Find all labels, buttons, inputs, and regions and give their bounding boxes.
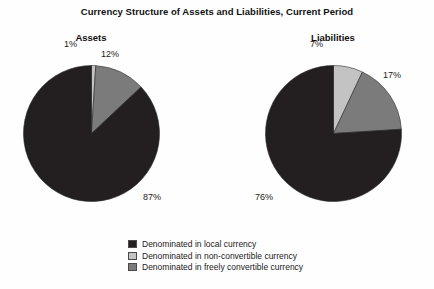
legend-item-local: Denominated in local currency bbox=[128, 239, 303, 249]
liabilities-pie bbox=[265, 65, 402, 206]
assets-panel-title: Assets bbox=[31, 32, 151, 43]
legend-item-freely-convertible: Denominated in freely convertible curren… bbox=[128, 262, 303, 272]
legend-swatch-non-convertible-icon bbox=[128, 252, 137, 260]
liabilities-local-percent-label: 76% bbox=[255, 192, 273, 202]
legend-label-freely-convertible: Denominated in freely convertible curren… bbox=[142, 262, 303, 272]
assets-local-percent-label: 87% bbox=[143, 192, 161, 202]
assets-pie bbox=[23, 65, 160, 206]
chart-title: Currency Structure of Assets and Liabili… bbox=[0, 6, 434, 17]
assets-freely-convertible-percent-label: 12% bbox=[101, 49, 119, 59]
legend-swatch-local-icon bbox=[128, 240, 137, 248]
assets-pie-svg bbox=[23, 65, 160, 202]
liabilities-panel-title: Liabilities bbox=[273, 32, 393, 43]
liabilities-freely-convertible-percent-label: 17% bbox=[383, 70, 401, 80]
chart-legend: Denominated in local currency Denominate… bbox=[128, 239, 303, 274]
pie-chart-figure: Currency Structure of Assets and Liabili… bbox=[0, 0, 434, 289]
legend-label-local: Denominated in local currency bbox=[142, 239, 256, 249]
legend-swatch-freely-convertible-icon bbox=[128, 263, 137, 271]
legend-item-non-convertible: Denominated in non-convertible currency bbox=[128, 251, 303, 261]
assets-non-convertible-percent-label: 1% bbox=[64, 39, 77, 49]
legend-label-non-convertible: Denominated in non-convertible currency bbox=[142, 251, 297, 261]
liabilities-pie-svg bbox=[265, 65, 402, 202]
liabilities-non-convertible-percent-label: 7% bbox=[310, 39, 323, 49]
